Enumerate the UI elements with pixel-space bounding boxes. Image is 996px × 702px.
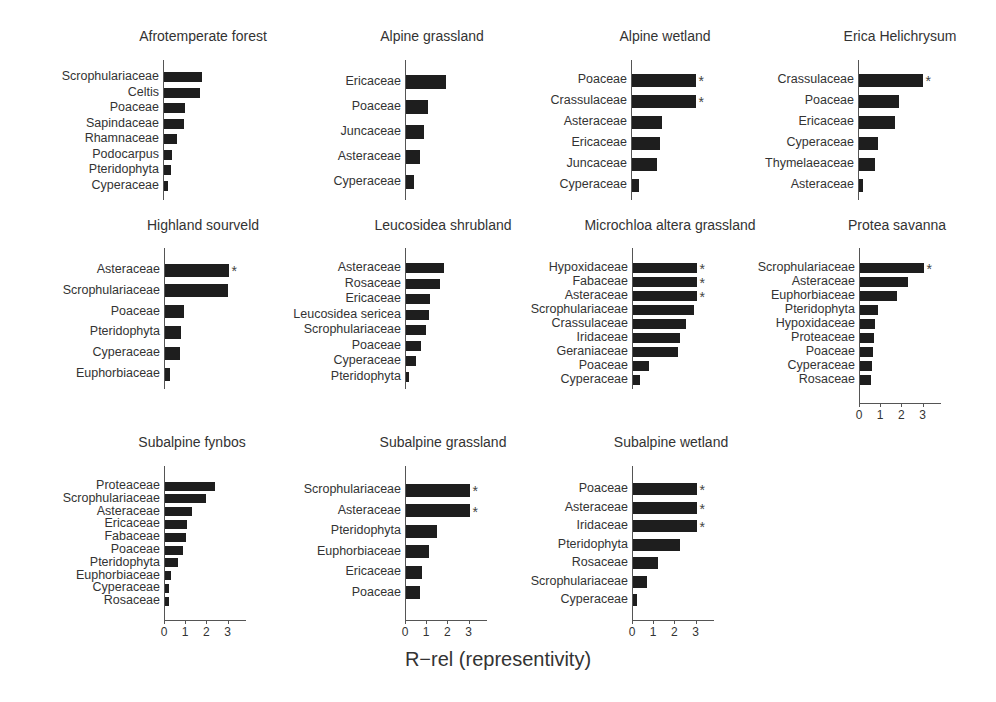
significance-star: * xyxy=(926,74,931,88)
x-tick xyxy=(447,620,448,624)
category-label: Crassulaceae xyxy=(778,72,854,86)
category-label: Cyperaceae xyxy=(560,177,627,191)
bar xyxy=(165,597,169,606)
significance-star: * xyxy=(699,74,704,88)
bar xyxy=(406,356,416,366)
category-label: Asteraceae xyxy=(564,114,627,128)
x-tick-label: 2 xyxy=(203,625,210,639)
x-tick xyxy=(632,620,633,624)
bar xyxy=(406,586,420,599)
category-label: Leucosidea sericea xyxy=(293,307,401,321)
x-tick-label: 0 xyxy=(629,625,636,639)
panel-title: Subalpine wetland xyxy=(614,434,728,450)
bar xyxy=(859,116,895,129)
panel-title: Alpine wetland xyxy=(619,28,710,44)
bar xyxy=(406,504,470,517)
significance-star: * xyxy=(700,262,705,276)
category-label: Sapindaceae xyxy=(86,116,159,130)
bar xyxy=(406,263,444,273)
x-tick xyxy=(405,620,406,624)
bar xyxy=(859,137,878,150)
bar xyxy=(633,319,686,329)
bar xyxy=(165,546,183,555)
bar xyxy=(860,375,871,385)
category-label: Juncaceae xyxy=(341,124,401,138)
category-label: Cyperaceae xyxy=(92,178,159,192)
category-label: Scrophulariaceae xyxy=(62,69,159,83)
bar xyxy=(406,341,421,351)
x-tick-label: 3 xyxy=(692,625,699,639)
bar xyxy=(860,305,878,315)
category-label: Rhamnaceae xyxy=(85,131,159,145)
category-label: Poaceae xyxy=(806,344,855,358)
category-label: Crassulaceae xyxy=(552,316,628,330)
x-tick-label: 1 xyxy=(423,625,430,639)
category-label: Euphorbiaceae xyxy=(771,288,855,302)
category-label: Cyperaceae xyxy=(787,135,854,149)
panel-title: Subalpine fynbos xyxy=(138,434,245,450)
category-label: Cyperaceae xyxy=(788,358,855,372)
bar xyxy=(164,134,177,144)
bar xyxy=(165,368,170,381)
category-label: Ericaceae xyxy=(798,114,854,128)
x-tick xyxy=(696,620,697,624)
panel-title: Highland sourveld xyxy=(147,217,259,233)
x-axis-label: R−rel (representivity) xyxy=(405,648,591,671)
bar xyxy=(406,372,409,382)
category-label: Ericaceae xyxy=(345,74,401,88)
bar xyxy=(633,502,697,514)
category-label: Iridaceae xyxy=(577,518,628,532)
significance-star: * xyxy=(700,483,705,497)
category-label: Asteraceae xyxy=(338,503,401,517)
category-label: Scrophulariaceae xyxy=(531,302,628,316)
category-label: Cyperaceae xyxy=(334,174,401,188)
bar xyxy=(165,494,206,503)
bar xyxy=(164,181,168,191)
bar xyxy=(406,566,422,579)
bar xyxy=(633,291,697,301)
bar xyxy=(633,375,640,385)
bar xyxy=(860,347,873,357)
bar xyxy=(165,347,180,360)
category-label: Cyperaceae xyxy=(93,345,160,359)
category-label: Hypoxidaceae xyxy=(549,260,628,274)
category-label: Scrophulariaceae xyxy=(304,322,401,336)
category-label: Ericaceae xyxy=(345,291,401,305)
bar xyxy=(632,158,657,171)
bar xyxy=(633,557,658,569)
x-tick-label: 3 xyxy=(465,625,472,639)
bar xyxy=(164,103,185,113)
category-label: Poaceae xyxy=(352,585,401,599)
x-tick xyxy=(185,620,186,624)
bar xyxy=(165,520,187,529)
bar xyxy=(164,119,184,129)
bar xyxy=(633,594,637,606)
category-label: Poaceae xyxy=(805,93,854,107)
bar xyxy=(633,539,680,551)
bar xyxy=(165,507,192,516)
x-tick-label: 2 xyxy=(898,408,905,422)
category-label: Pteridophyta xyxy=(331,369,401,383)
bar xyxy=(165,264,229,277)
x-tick xyxy=(901,403,902,407)
category-label: Asteraceae xyxy=(338,149,401,163)
category-label: Pteridophyta xyxy=(89,162,159,176)
category-label: Scrophulariaceae xyxy=(304,482,401,496)
panel-title: Erica Helichrysum xyxy=(844,28,957,44)
x-tick xyxy=(653,620,654,624)
panel-title: Leucosidea shrubland xyxy=(375,217,512,233)
category-label: Podocarpus xyxy=(92,147,159,161)
category-label: Asteraceae xyxy=(565,500,628,514)
bar xyxy=(632,179,639,192)
x-tick-label: 2 xyxy=(671,625,678,639)
category-label: Scrophulariaceae xyxy=(63,283,160,297)
x-axis-line xyxy=(859,403,941,404)
category-label: Pteridophyta xyxy=(331,523,401,537)
category-label: Scrophulariaceae xyxy=(758,260,855,274)
x-tick xyxy=(164,620,165,624)
bar xyxy=(165,584,169,593)
significance-star: * xyxy=(927,262,932,276)
bar xyxy=(406,525,437,538)
category-label: Pteridophyta xyxy=(558,537,628,551)
significance-star: * xyxy=(700,290,705,304)
